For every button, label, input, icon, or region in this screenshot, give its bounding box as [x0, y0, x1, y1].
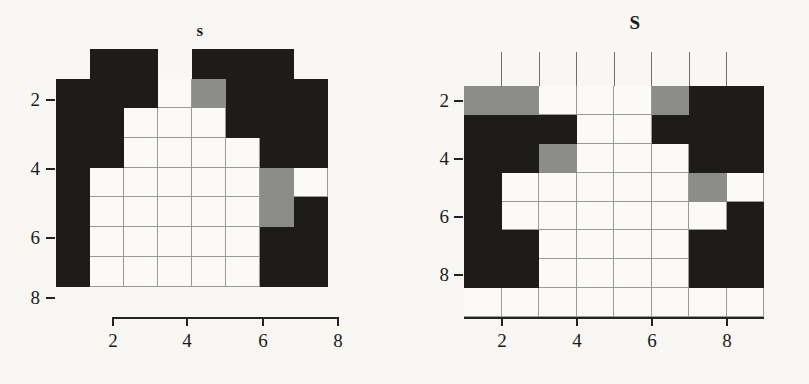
heatmap-cell: [226, 49, 260, 79]
heatmap-cell: [539, 259, 577, 288]
heatmap-cell: [90, 108, 124, 138]
heatmap-cell: [614, 144, 652, 173]
heatmap-cell: [294, 227, 328, 257]
heatmap-cell: [192, 49, 226, 79]
y-tick-mark-left-2: [46, 99, 55, 101]
heatmap-cell: [577, 202, 615, 231]
heatmap-cell: [158, 227, 192, 257]
y-tick-mark-right-6: [454, 216, 463, 218]
heatmap-cell: [260, 49, 294, 79]
heatmap-cell: [192, 227, 226, 257]
heatmap-cell: [90, 287, 124, 317]
y-tick-mark-left-8: [46, 297, 55, 299]
heatmap-cell: [577, 259, 615, 288]
y-tick-mark-right-4: [454, 158, 463, 160]
y-tick-label-right-6: 6: [427, 207, 449, 227]
heatmap-cell: [158, 49, 192, 79]
heatmap-cell: [464, 230, 502, 259]
heatmap-cell: [158, 168, 192, 198]
y-tick-mark-right-8: [454, 274, 463, 276]
heatmap-cell: [124, 287, 158, 317]
overhead-gridline-6: [689, 52, 690, 86]
heatmap-cell: [577, 173, 615, 202]
heatmap-cell: [226, 257, 260, 287]
heatmap-cell: [577, 115, 615, 144]
heatmap-cell: [56, 168, 90, 198]
heatmap-cell: [502, 230, 540, 259]
heatmap-cell: [689, 202, 727, 231]
heatmap-cell: [464, 173, 502, 202]
y-tick-label-left-8: 8: [18, 288, 40, 308]
heatmap-cell: [328, 227, 362, 257]
heatmap-cell: [689, 173, 727, 202]
heatmap-cell: [226, 168, 260, 198]
x-tick-mark-right-6: [651, 317, 653, 326]
heatmap-cell: [90, 197, 124, 227]
heatmap-cell: [502, 259, 540, 288]
heatmap-cell: [158, 138, 192, 168]
x-tick-mark-right-8: [726, 317, 728, 326]
chart-panel-right: S 2 4 6 8 2 4 6 8: [405, 0, 809, 384]
y-tick-mark-left-4: [46, 168, 55, 170]
heatmap-cell: [294, 257, 328, 287]
heatmap-cell: [90, 79, 124, 109]
heatmap-cell: [124, 138, 158, 168]
heatmap-cell: [328, 108, 362, 138]
heatmap-cell: [614, 173, 652, 202]
heatmap-cell: [192, 257, 226, 287]
heatmap-cell: [577, 230, 615, 259]
heatmap-cell: [502, 202, 540, 231]
heatmap-cell: [192, 138, 226, 168]
heatmap-cell: [464, 115, 502, 144]
heatmap-cell: [226, 287, 260, 317]
heatmap-cell: [614, 86, 652, 115]
heatmap-cell: [260, 287, 294, 317]
heatmap-cell: [56, 108, 90, 138]
heatmap-cell: [328, 197, 362, 227]
heatmap-cell: [226, 197, 260, 227]
heatmap-grid-left: [56, 49, 362, 317]
heatmap-cell: [226, 138, 260, 168]
heatmap-cell: [502, 288, 540, 317]
heatmap-cell: [689, 288, 727, 317]
heatmap-cell: [539, 144, 577, 173]
heatmap-cell: [727, 259, 765, 288]
heatmap-cell: [614, 115, 652, 144]
heatmap-cell: [158, 257, 192, 287]
heatmap-cell: [90, 138, 124, 168]
heatmap-cell: [689, 115, 727, 144]
heatmap-cell: [502, 173, 540, 202]
heatmap-cell: [192, 79, 226, 109]
heatmap-cell: [260, 79, 294, 109]
heatmap-cell: [192, 168, 226, 198]
heatmap-cell: [260, 227, 294, 257]
heatmap-cell: [56, 79, 90, 109]
y-tick-mark-left-6: [46, 237, 55, 239]
heatmap-cell: [539, 115, 577, 144]
x-tick-label-left-4: 4: [174, 331, 200, 351]
heatmap-cell: [328, 79, 362, 109]
x-tick-mark-left-6: [262, 317, 264, 326]
heatmap-cell: [56, 257, 90, 287]
heatmap-cell: [727, 86, 765, 115]
x-tick-mark-right-4: [576, 317, 578, 326]
heatmap-cell: [328, 49, 362, 79]
heatmap-cell: [124, 108, 158, 138]
heatmap-cell: [124, 79, 158, 109]
y-tick-label-right-4: 4: [427, 149, 449, 169]
heatmap-cell: [652, 259, 690, 288]
heatmap-cell: [502, 86, 540, 115]
heatmap-cell: [124, 197, 158, 227]
heatmap-cell: [294, 138, 328, 168]
figure-canvas: s 2 4 6 8 2 4 6 8 S 2: [0, 0, 809, 384]
heatmap-cell: [192, 197, 226, 227]
heatmap-cell: [56, 227, 90, 257]
x-tick-mark-right-2: [501, 317, 503, 326]
y-tick-label-left-6: 6: [18, 228, 40, 248]
heatmap-cell: [464, 288, 502, 317]
heatmap-cell: [652, 173, 690, 202]
heatmap-cell: [260, 257, 294, 287]
heatmap-cell: [689, 259, 727, 288]
heatmap-cell: [727, 288, 765, 317]
heatmap-cell: [614, 202, 652, 231]
